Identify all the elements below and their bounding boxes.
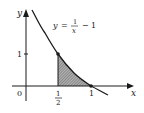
svg-text:x: x [72, 27, 76, 35]
y-axis-label: y [16, 8, 23, 18]
svg-text:1: 1 [73, 18, 77, 26]
svg-text:1: 1 [91, 21, 96, 30]
y-tick-label-1: 1 [17, 50, 22, 59]
origin-label: 0 [17, 89, 22, 98]
svg-text:−: − [82, 21, 89, 30]
y-axis-arrow-icon [23, 9, 29, 17]
point-one-zero [89, 84, 93, 88]
point-half-one [56, 52, 60, 56]
shaded-region [58, 54, 91, 86]
svg-text:y: y [52, 21, 58, 30]
x-tick-label-1: 1 [89, 89, 94, 98]
svg-text:1: 1 [56, 90, 60, 98]
x-axis-label: x [131, 88, 136, 98]
area-under-curve-diagram: y x 0 1 1 1 2 y = 1 x − 1 [0, 0, 144, 113]
equation-label: y = 1 x − 1 [52, 18, 96, 35]
svg-text:2: 2 [56, 99, 60, 107]
x-tick-label-half: 1 2 [55, 90, 62, 107]
svg-text:=: = [61, 21, 68, 30]
